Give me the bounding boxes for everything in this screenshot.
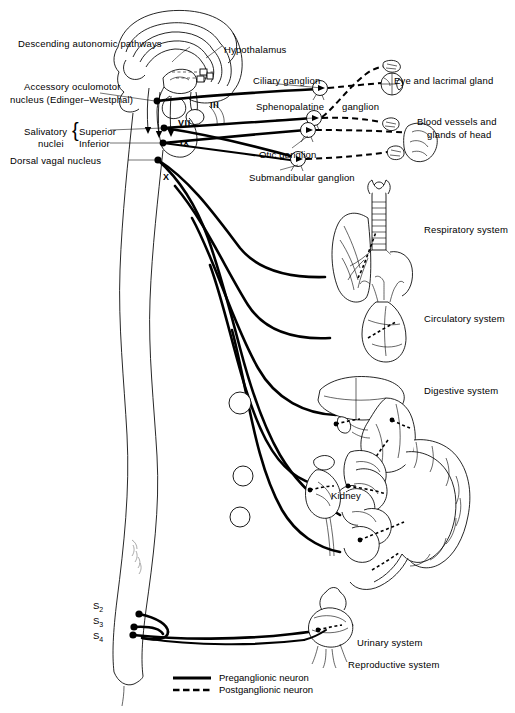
legend-swatches (173, 678, 211, 690)
salivatory-brace: { (72, 120, 79, 140)
label-reproductive-system: Reproductive system (348, 659, 440, 671)
label-urinary-system: Urinary system (357, 637, 422, 649)
legend-label-preganglionic: Preganglionic neuron (219, 672, 309, 683)
label-eye-and-lacrimal-gland: Eye and lacrimal gland (394, 75, 493, 87)
cranial-nerve-IX: IX (180, 138, 190, 148)
urinary-reproductive-organs (304, 588, 353, 669)
label-sphenopalatine-ganglion-b: ganglion (342, 101, 379, 113)
label-salivatory-inferior: Inferior (79, 138, 110, 150)
label-dorsal-vagal-nucleus: Dorsal vagal nucleus (10, 155, 101, 167)
label-submandibular-ganglion: Submandibular ganglion (249, 172, 355, 184)
label-accessory-oculomotor-line2: nucleus (Edinger–Westphal) (10, 94, 133, 106)
label-otic-ganglion: Otic ganglion (259, 149, 316, 161)
label-respiratory-system: Respiratory system (424, 224, 508, 236)
label-kidney: Kidney (331, 490, 361, 502)
cranial-nerve-X: X (163, 172, 170, 182)
label-ciliary-ganglion: Ciliary ganglion (253, 75, 320, 87)
sacral-segment-S2-number: 2 (99, 606, 103, 613)
brain-outline (114, 10, 242, 157)
sacral-segment-S3-number: 3 (99, 621, 103, 628)
respiratory-organ (332, 180, 413, 302)
label-salivatory-line2: nuclei (38, 138, 64, 150)
label-sphenopalatine-ganglion-a: Sphenopalatine (256, 101, 324, 113)
artist-signature (132, 540, 141, 574)
cranial-nerve-III: III (210, 100, 219, 110)
label-hypothalamus: Hypothalamus (224, 44, 287, 56)
sacral-segment-S4-number: 4 (99, 636, 103, 643)
label-salivatory-superior: Superior (79, 126, 116, 138)
sacral-segment-S4: S4 (93, 630, 103, 643)
sacral-segment-S2: S2 (93, 600, 103, 613)
legend-label-postganglionic: Postganglionic neuron (219, 684, 313, 695)
label-descending-autonomic-pathways: Descending autonomic pathways (18, 38, 162, 50)
label-circulatory-system: Circulatory system (424, 313, 505, 325)
cranial-nerve-VII: VII (178, 118, 191, 128)
label-blood-vessels-line2: glands of head (427, 129, 491, 141)
label-salivatory-line1: Salivatory (24, 126, 67, 138)
label-accessory-oculomotor-line1: Accessory oculomotor (24, 81, 120, 93)
label-digestive-system: Digestive system (424, 385, 498, 397)
sacral-segment-S3: S3 (93, 615, 103, 628)
label-blood-vessels-line1: Blood vessels and (417, 116, 497, 128)
